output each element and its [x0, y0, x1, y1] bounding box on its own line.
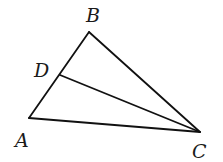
segment-dc: [60, 75, 200, 132]
label-d: D: [33, 59, 49, 81]
label-c: C: [192, 140, 207, 162]
label-b: B: [85, 4, 100, 26]
segment-ca: [29, 118, 200, 132]
triangle-diagram: A B C D: [0, 0, 223, 162]
label-a: A: [13, 129, 29, 151]
segment-bc: [89, 32, 200, 132]
